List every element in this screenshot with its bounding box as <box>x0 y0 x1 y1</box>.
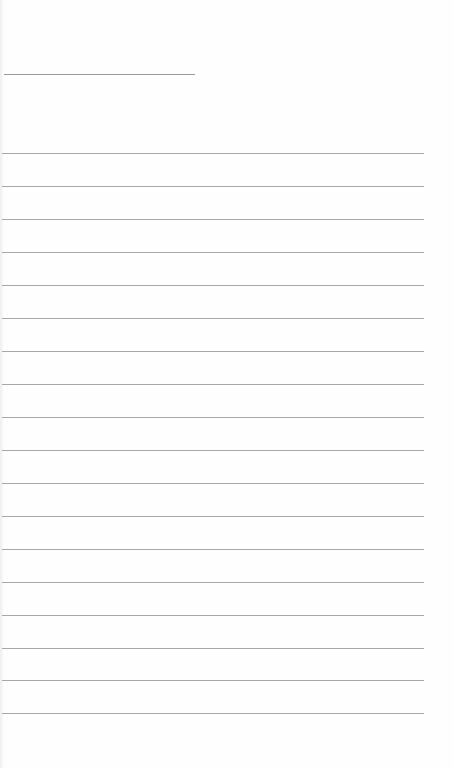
ruled-line <box>2 384 424 385</box>
ruled-line <box>2 186 424 187</box>
ruled-line <box>2 153 424 154</box>
ruled-line <box>2 285 424 286</box>
ruled-line <box>2 318 424 319</box>
ruled-line <box>2 680 424 681</box>
ruled-line <box>2 615 424 616</box>
ruled-line <box>2 219 424 220</box>
ruled-line <box>2 483 424 484</box>
ruled-line <box>2 549 424 550</box>
header-short-line <box>4 74 195 75</box>
ruled-line <box>2 582 424 583</box>
lined-paper-page <box>0 0 453 768</box>
ruled-line <box>2 713 424 714</box>
ruled-line <box>2 417 424 418</box>
ruled-line <box>2 351 424 352</box>
ruled-line <box>2 516 424 517</box>
ruled-line <box>2 648 424 649</box>
ruled-line <box>2 450 424 451</box>
ruled-line <box>2 252 424 253</box>
